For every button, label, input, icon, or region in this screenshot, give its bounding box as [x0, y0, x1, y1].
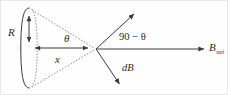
complement-angle-label: 90 − θ [119, 32, 146, 43]
cone-ray-lower [32, 50, 95, 88]
diagram-canvas [1, 1, 228, 95]
radius-label: R [8, 27, 15, 38]
physics-diagram-figure: R θ x 90 − θ dB Bnet [0, 0, 228, 95]
axial-distance-label: x [55, 54, 60, 65]
dB-vector-lower-arrow [96, 49, 120, 84]
theta-angle-label: θ [64, 33, 69, 44]
dB-vector-label: dB [122, 63, 134, 74]
bnet-subscript: net [216, 48, 224, 55]
bnet-vector-label: Bnet [209, 42, 224, 53]
bnet-base-symbol: B [209, 41, 216, 53]
current-loop-near-arc [21, 8, 29, 88]
